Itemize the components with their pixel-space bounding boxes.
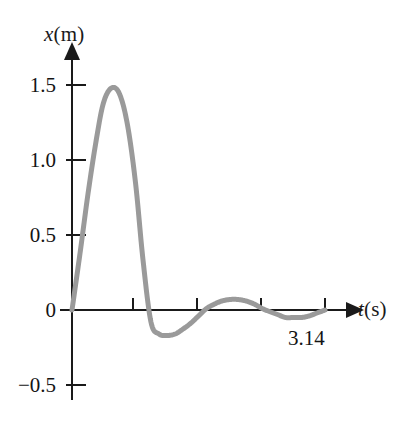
y-tick-label-0: 0	[8, 298, 56, 323]
damped-oscillation-curve	[72, 87, 325, 335]
y-tick-label-0-5: 0.5	[8, 223, 56, 248]
x-tick-label-3-14: 3.14	[288, 326, 325, 351]
x-axis-title: t(s)	[358, 297, 387, 322]
plot-svg	[0, 0, 405, 421]
y-tick-label-1-5: 1.5	[8, 73, 56, 98]
y-tick-label-1-0: 1.0	[8, 148, 56, 173]
damped-oscillation-figure: x(m) t(s) 1.5 1.0 0.5 0 −0.5 3.14	[0, 0, 405, 421]
y-tick-label-neg-0-5: −0.5	[0, 373, 56, 398]
y-axis-title: x(m)	[44, 22, 84, 47]
y-axis-variable: x	[44, 22, 54, 46]
y-axis-unit: (m)	[54, 22, 85, 46]
x-axis-unit: (s)	[364, 297, 387, 321]
